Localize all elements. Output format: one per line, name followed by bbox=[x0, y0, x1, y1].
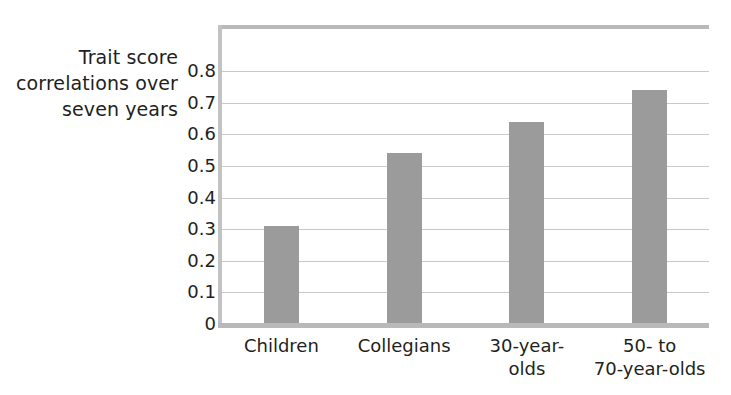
y-axis-tick-label: 0.8 bbox=[178, 62, 216, 80]
x-axis-category-label-line: Collegians bbox=[343, 334, 466, 357]
x-axis-category-label-line: 50- to bbox=[588, 334, 711, 357]
y-axis-title-line-1: Trait score bbox=[8, 44, 178, 70]
y-axis-tick-label: 0.7 bbox=[178, 94, 216, 112]
x-axis-baseline bbox=[218, 323, 709, 328]
x-axis-category-label: Children bbox=[220, 334, 343, 357]
y-axis-tick-label: 0.2 bbox=[178, 252, 216, 270]
x-axis-category-label-line: 30-year- bbox=[466, 334, 589, 357]
bar bbox=[264, 226, 299, 324]
x-axis-category-labels: ChildrenCollegians30-year-olds50- to70-y… bbox=[218, 334, 709, 394]
x-axis-category-label-line: Children bbox=[220, 334, 343, 357]
bar-series bbox=[218, 25, 709, 328]
plot-area bbox=[218, 25, 709, 328]
y-axis-tick-label: 0 bbox=[178, 315, 216, 333]
bar bbox=[632, 90, 667, 324]
bar bbox=[387, 153, 422, 324]
x-axis-category-label-line: olds bbox=[466, 357, 589, 380]
y-axis-title-line-3: seven years bbox=[8, 96, 178, 122]
x-axis-category-label: 50- to70-year-olds bbox=[588, 334, 711, 380]
x-axis-category-label: 30-year-olds bbox=[466, 334, 589, 380]
y-axis-title-line-2: correlations over bbox=[8, 70, 178, 96]
y-axis-tick-label: 0.3 bbox=[178, 220, 216, 238]
y-axis-title: Trait score correlations over seven year… bbox=[8, 44, 178, 122]
y-axis-tick-label: 0.1 bbox=[178, 283, 216, 301]
y-axis-tick-labels: 0.80.70.60.50.40.30.20.10 bbox=[178, 0, 216, 395]
y-axis-tick-label: 0.6 bbox=[178, 125, 216, 143]
y-axis-tick-label: 0.5 bbox=[178, 157, 216, 175]
y-axis-tick-label: 0.4 bbox=[178, 189, 216, 207]
x-axis-category-label-line: 70-year-olds bbox=[588, 357, 711, 380]
bar bbox=[509, 122, 544, 324]
x-axis-category-label: Collegians bbox=[343, 334, 466, 357]
